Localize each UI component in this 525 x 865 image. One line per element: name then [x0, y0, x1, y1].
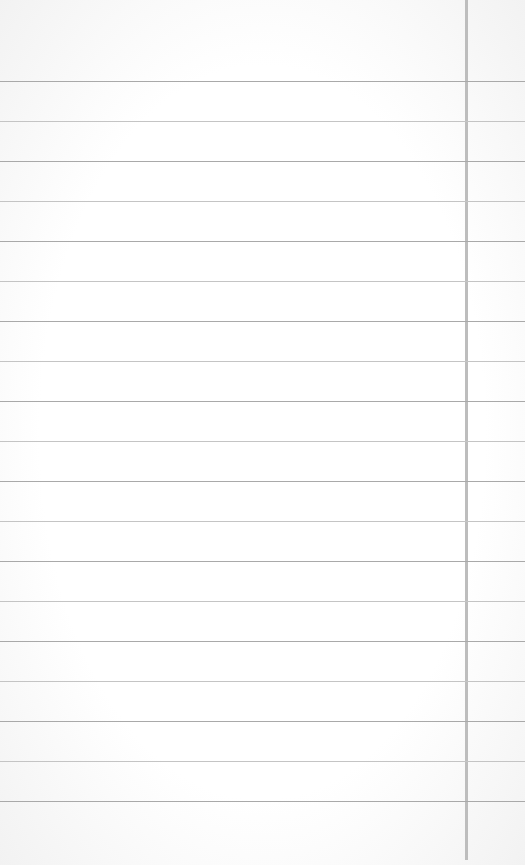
margin-line [465, 0, 468, 860]
ruled-line [0, 521, 525, 522]
ruled-line [0, 481, 525, 482]
ruled-line [0, 121, 525, 122]
ruled-line [0, 641, 525, 642]
ruled-line [0, 441, 525, 442]
ruled-line [0, 601, 525, 602]
ruled-line [0, 721, 525, 722]
ruled-line [0, 321, 525, 322]
ruled-line [0, 801, 525, 802]
ruled-line [0, 681, 525, 682]
ruled-line [0, 401, 525, 402]
ruled-line [0, 361, 525, 362]
ruled-line [0, 561, 525, 562]
ruled-line [0, 81, 525, 82]
ruled-line [0, 761, 525, 762]
ruled-line [0, 161, 525, 162]
ruled-line [0, 241, 525, 242]
ruled-line [0, 281, 525, 282]
lined-paper [0, 0, 525, 865]
ruled-line [0, 201, 525, 202]
